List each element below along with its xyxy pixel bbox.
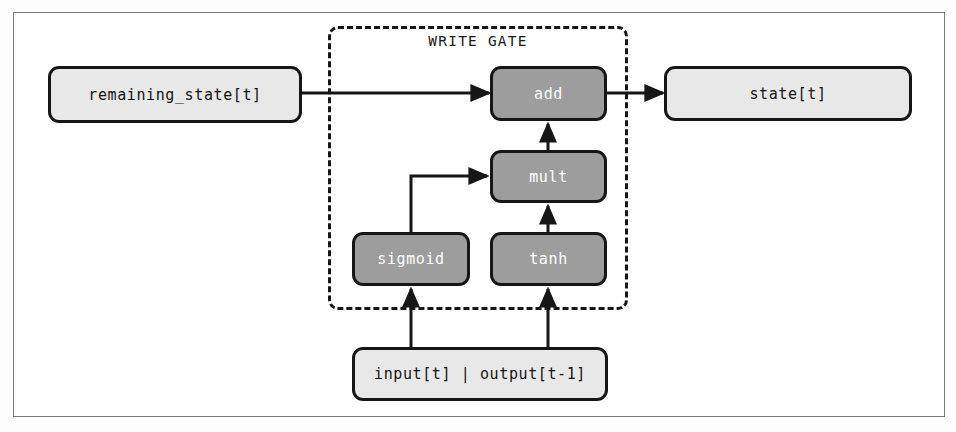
node-sigmoid[interactable]: sigmoid (352, 232, 470, 286)
node-state-label: state[t] (749, 85, 826, 103)
node-mult-label: mult (529, 168, 568, 186)
write-gate-label: WRITE GATE (328, 33, 628, 49)
node-tanh[interactable]: tanh (490, 232, 607, 286)
node-input-label: input[t] | output[t-1] (374, 365, 586, 383)
node-mult[interactable]: mult (490, 150, 607, 203)
node-add[interactable]: add (490, 66, 607, 121)
node-input[interactable]: input[t] | output[t-1] (352, 347, 608, 401)
diagram-canvas: WRITE GATE (0, 0, 956, 432)
node-sigmoid-label: sigmoid (377, 250, 444, 268)
node-add-label: add (534, 85, 563, 103)
node-tanh-label: tanh (529, 250, 568, 268)
node-remaining-state-label: remaining_state[t] (88, 86, 261, 104)
node-remaining-state[interactable]: remaining_state[t] (48, 66, 302, 123)
node-state[interactable]: state[t] (664, 66, 912, 121)
